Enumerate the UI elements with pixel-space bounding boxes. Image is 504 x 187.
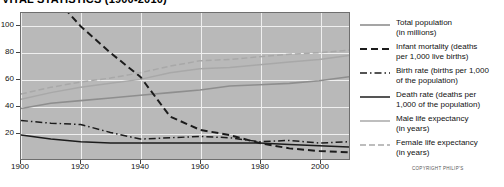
copyright-notice: COPYRIGHT PHILIP'S <box>412 166 463 171</box>
legend-label-secondary: 1,000 of the population) <box>396 100 480 110</box>
x-axis-tick <box>200 160 201 164</box>
legend-label-primary: Total population <box>396 18 452 28</box>
y-axis-tick <box>16 52 20 53</box>
series-line <box>21 135 349 147</box>
legend-item: Death rate (deaths per1,000 of the popul… <box>360 90 502 109</box>
y-axis-tick-label: 40 <box>0 101 14 110</box>
y-axis-tick <box>16 106 20 107</box>
y-axis-tick <box>16 133 20 134</box>
legend-label-secondary: (in years) <box>396 124 468 134</box>
series-line <box>21 55 349 99</box>
chart-figure: VITAL STATISTICS (1900-2010) 20406080100… <box>0 0 504 187</box>
legend-label-primary: Female life expectancy <box>396 138 478 148</box>
legend-line-icon <box>360 44 390 54</box>
series-line <box>21 50 349 94</box>
legend-line-icon <box>360 116 390 126</box>
data-series-layer <box>21 13 349 159</box>
y-axis-tick-label: 80 <box>0 47 14 56</box>
legend-line-icon <box>360 92 390 102</box>
legend-label-secondary: (in years) <box>396 148 478 158</box>
legend-label-primary: Infant mortality (deaths <box>396 42 477 52</box>
legend-label-secondary: of the population) <box>396 76 489 86</box>
legend-label-primary: Male life expectancy <box>396 114 468 124</box>
x-axis-tick <box>260 160 261 164</box>
y-axis-tick-label: 20 <box>0 128 14 137</box>
plot-area <box>20 12 350 160</box>
legend-item: Birth rate (births per 1,000of the popul… <box>360 66 502 85</box>
legend-label-primary: Death rate (deaths per <box>396 90 480 100</box>
legend-label-primary: Birth rate (births per 1,000 <box>396 66 489 76</box>
legend-item: Male life expectancy(in years) <box>360 114 502 133</box>
legend-line-icon <box>360 140 390 150</box>
y-axis-tick-label: 100 <box>0 20 14 29</box>
legend-item: Female life expectancy(in years) <box>360 138 502 157</box>
legend-line-icon <box>360 68 390 78</box>
y-axis-tick <box>16 79 20 80</box>
legend-label-secondary: per 1,000 live births) <box>396 52 477 62</box>
legend-line-icon <box>360 20 390 30</box>
legend-item: Infant mortality (deathsper 1,000 live b… <box>360 42 502 61</box>
x-axis-tick <box>320 160 321 164</box>
y-axis-tick-label: 60 <box>0 74 14 83</box>
chart-legend: Total population(in millions)Infant mort… <box>360 18 502 162</box>
y-axis-tick <box>16 25 20 26</box>
chart-title: VITAL STATISTICS (1900-2010) <box>2 0 167 5</box>
legend-label-secondary: (in millions) <box>396 28 452 38</box>
legend-item: Total population(in millions) <box>360 18 502 37</box>
x-axis-tick <box>80 160 81 164</box>
x-axis-tick <box>20 160 21 164</box>
series-line <box>21 77 349 109</box>
x-axis-tick <box>140 160 141 164</box>
